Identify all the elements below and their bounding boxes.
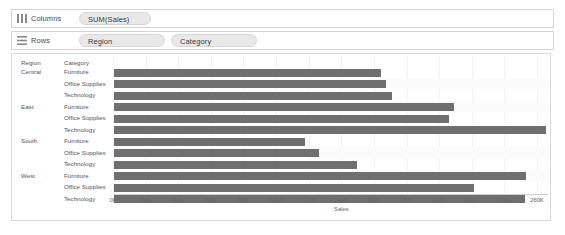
pill-sum-sales[interactable]: SUM(Sales) <box>79 12 151 25</box>
viz-inner: Region Category 0K20K40K60K80K100K120K14… <box>12 54 550 220</box>
pill-region[interactable]: Region <box>79 34 165 47</box>
x-axis-tick-label: 100K <box>269 197 283 203</box>
bar-mark[interactable] <box>114 126 546 134</box>
columns-shelf[interactable]: Columns SUM(Sales) <box>11 9 554 28</box>
columns-shelf-label: Columns <box>31 14 79 23</box>
bar-mark[interactable] <box>114 172 526 180</box>
bar-mark[interactable] <box>114 184 474 192</box>
rows-shelf-icon <box>17 36 27 45</box>
row-header-region[interactable]: South <box>21 137 37 144</box>
row-header-category[interactable]: Furniture <box>64 103 89 110</box>
row-header-category[interactable]: Technology <box>64 160 95 167</box>
row-header-region[interactable]: Central <box>21 68 41 75</box>
x-axis-tick-label: 140K <box>335 197 349 203</box>
x-axis-tick-label: 60K <box>206 197 216 203</box>
header-category: Category <box>64 59 89 66</box>
bar-mark[interactable] <box>114 161 357 169</box>
x-axis-tick-label: 20K <box>140 197 150 203</box>
row-header-category[interactable]: Office Supplies <box>64 183 106 190</box>
row-header-category[interactable]: Furniture <box>64 172 89 179</box>
bar-mark[interactable] <box>114 115 449 123</box>
rows-shelf[interactable]: Rows Region Category <box>11 31 554 50</box>
x-axis-tick-label: 200K <box>432 197 446 203</box>
row-header-category[interactable]: Technology <box>64 195 95 202</box>
x-axis-tick-label: 0K <box>109 197 116 203</box>
header-region: Region <box>21 59 41 66</box>
x-axis-line <box>113 194 548 195</box>
row-header-category[interactable]: Office Supplies <box>64 149 106 156</box>
pill-category[interactable]: Category <box>171 34 257 47</box>
row-header-category[interactable]: Technology <box>64 91 95 98</box>
columns-shelf-icon <box>17 14 27 23</box>
shelf-area: Columns SUM(Sales) Rows Region Category <box>11 9 554 53</box>
rows-shelf-label: Rows <box>31 36 79 45</box>
row-header-category[interactable]: Furniture <box>64 137 89 144</box>
x-axis-tick-label: 220K <box>465 197 479 203</box>
bar-mark[interactable] <box>114 103 454 111</box>
plot-area <box>113 56 548 194</box>
bar-mark[interactable] <box>114 138 305 146</box>
x-axis-tick-label: 40K <box>173 197 183 203</box>
bar-mark[interactable] <box>114 80 386 88</box>
row-header-category[interactable]: Office Supplies <box>64 114 106 121</box>
bar-mark[interactable] <box>114 149 319 157</box>
x-axis-tick-label: 240K <box>498 197 512 203</box>
tableau-worksheet: Columns SUM(Sales) Rows Region Category … <box>0 0 565 235</box>
x-axis-title: Sales <box>334 206 349 212</box>
row-header-category[interactable]: Technology <box>64 126 95 133</box>
bar-mark[interactable] <box>114 92 392 100</box>
x-axis-tick-label: 120K <box>302 197 316 203</box>
x-axis: 0K20K40K60K80K100K120K140K160K180K200K22… <box>113 194 548 220</box>
x-axis-tick-label: 180K <box>400 197 414 203</box>
row-header-region[interactable]: East <box>21 103 33 110</box>
x-axis-tick-label: 160K <box>367 197 381 203</box>
x-axis-tick-label: 260K <box>530 197 544 203</box>
row-header-region[interactable]: West <box>21 172 35 179</box>
row-header-category[interactable]: Furniture <box>64 68 89 75</box>
visualization-panel: Region Category 0K20K40K60K80K100K120K14… <box>11 53 551 221</box>
x-axis-tick-label: 80K <box>238 197 248 203</box>
bar-mark[interactable] <box>114 69 381 77</box>
row-header-category[interactable]: Office Supplies <box>64 80 106 87</box>
